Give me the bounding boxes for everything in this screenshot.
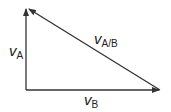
vector-ab-arrow: [29, 9, 160, 90]
label-vb: vB: [84, 92, 98, 110]
label-vab: vA/B: [94, 31, 118, 49]
label-va: vA: [9, 43, 23, 61]
